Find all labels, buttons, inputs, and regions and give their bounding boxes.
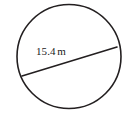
circle-outline <box>17 5 121 109</box>
circle-diagram-figure: 15.4m <box>0 0 132 118</box>
chord-length-value: 15.4 <box>36 45 56 57</box>
diagram-canvas <box>0 0 132 118</box>
chord-length-unit: m <box>57 45 66 57</box>
chord-length-label: 15.4m <box>36 45 66 57</box>
